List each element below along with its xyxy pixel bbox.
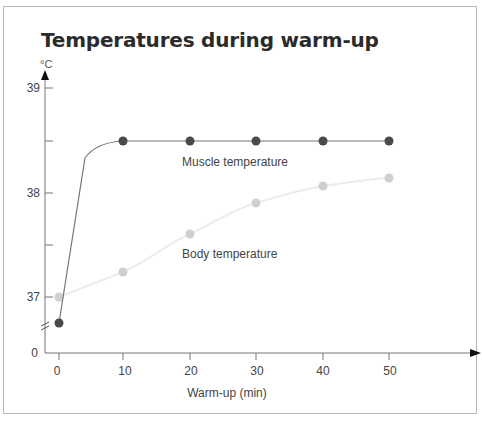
body-temperature-points <box>55 174 394 302</box>
y-ticks <box>45 88 53 297</box>
body-temperature-line <box>59 178 389 297</box>
x-ticks <box>59 353 389 360</box>
x-tick-40: 40 <box>316 364 330 378</box>
chart-plot: °C 39 38 37 0 0 10 20 30 40 50 War <box>0 0 482 435</box>
x-tick-20: 20 <box>184 364 198 378</box>
y-tick-38: 38 <box>27 186 41 200</box>
muscle-temperature-label: Muscle temperature <box>182 155 288 169</box>
x-tick-0: 0 <box>54 364 61 378</box>
y-tick-39: 39 <box>27 81 41 95</box>
x-tick-50: 50 <box>383 364 397 378</box>
x-tick-10: 10 <box>118 364 132 378</box>
y-unit-label: °C <box>40 58 52 70</box>
x-axis-arrow-icon <box>470 349 481 357</box>
body-temperature-label: Body temperature <box>182 247 278 261</box>
x-axis-label: Warm-up (min) <box>187 386 267 400</box>
y-tick-37: 37 <box>27 290 41 304</box>
y-axis-arrow-icon <box>41 70 49 80</box>
x-tick-30: 30 <box>250 364 264 378</box>
y-tick-0: 0 <box>31 346 38 360</box>
